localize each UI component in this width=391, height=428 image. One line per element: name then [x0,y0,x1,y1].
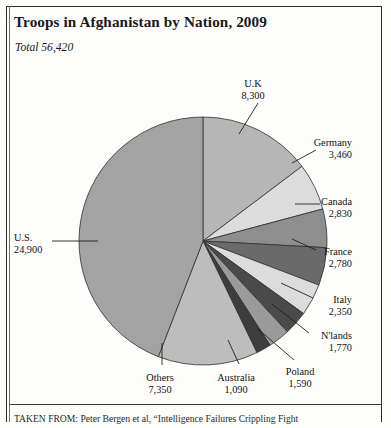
pie-label-value-n-lands: 1,770 [232,342,352,354]
pie-label-name-u-k: U.K [193,78,313,90]
pie-label-name-italy: Italy [232,294,352,306]
pie-label-name-germany: Germany [232,137,352,149]
pie-label-canada: Canada2,830 [232,196,352,219]
pie-label-germany: Germany3,460 [232,137,352,160]
pie-label-value-canada: 2,830 [232,208,352,220]
pie-label-france: France2,780 [232,246,352,269]
pie-label-value-u-k: 8,300 [193,90,313,102]
pie-label-others: Others7,350 [100,372,220,395]
pie-label-value-others: 7,350 [100,384,220,396]
pie-label-value-germany: 3,460 [232,149,352,161]
pie-label-name-france: France [232,246,352,258]
pie-label-name-u-s: U.S. [14,232,42,244]
pie-label-name-canada: Canada [232,196,352,208]
pie-label-name-n-lands: N'lands [232,330,352,342]
figure-container: Troops in Afghanistan by Nation, 2009 To… [0,0,391,428]
pie-label-value-france: 2,780 [232,258,352,270]
pie-label-n-lands: N'lands1,770 [232,330,352,353]
pie-label-value-u-s: 24,900 [14,244,42,256]
pie-label-name-others: Others [100,372,220,384]
pie-label-value-italy: 2,350 [232,306,352,318]
pie-label-u-s: U.S.24,900 [14,232,42,255]
pie-label-italy: Italy2,350 [232,294,352,317]
figure-source-note: TAKEN FROM: Peter Bergen et al, “Intelli… [14,413,380,428]
pie-label-u-k: U.K8,300 [193,78,313,101]
